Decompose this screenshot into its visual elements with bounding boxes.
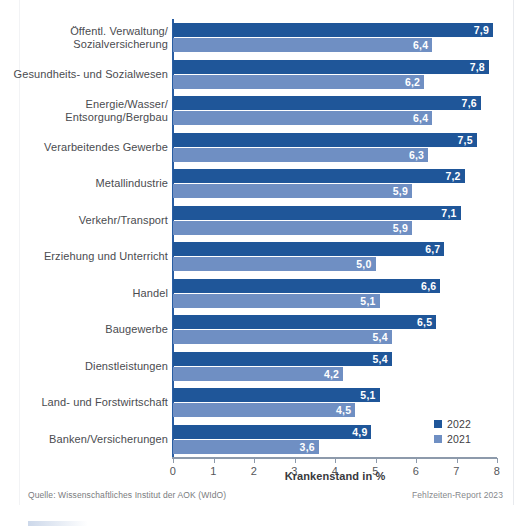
- bar-group: 7,66,4: [173, 96, 497, 126]
- bar-group: 7,86,2: [173, 60, 497, 90]
- bar-row-2022: 7,5: [173, 133, 497, 147]
- bar-value-label: 5,1: [173, 388, 376, 402]
- chart-figure: Öffentl. Verwaltung/SozialversicherungGe…: [0, 0, 531, 531]
- x-axis-tick: [416, 458, 417, 463]
- x-axis-tick: [497, 458, 498, 463]
- bar-row-2021: 6,4: [173, 38, 497, 52]
- bar-value-label: 7,9: [173, 23, 489, 37]
- legend-swatch-icon: [434, 435, 442, 443]
- category-label-line: Sozialversicherung: [4, 38, 168, 51]
- bar-value-label: 5,9: [173, 184, 408, 198]
- category-label: Gesundheits- und Sozialwesen: [4, 68, 168, 81]
- x-axis-tick: [214, 458, 215, 463]
- x-axis-tick: [376, 458, 377, 463]
- bar-value-label: 6,3: [173, 148, 424, 162]
- bar-row-2022: 6,5: [173, 315, 497, 329]
- bar-value-label: 7,1: [173, 206, 457, 220]
- category-label-line: Verkehr/Transport: [4, 214, 168, 227]
- bar-value-label: 6,5: [173, 315, 432, 329]
- report-note: Fehlzeiten-Report 2023: [412, 490, 503, 500]
- bar-value-label: 4,9: [173, 425, 367, 439]
- category-label-line: Energie/Wasser/: [4, 98, 168, 111]
- page-artifact: [28, 521, 88, 526]
- bar-row-2021: 5,9: [173, 221, 497, 235]
- category-label: Öffentl. Verwaltung/Sozialversicherung: [4, 25, 168, 50]
- bar-row-2022: 7,9: [173, 23, 497, 37]
- bar-value-label: 5,9: [173, 221, 408, 235]
- x-axis-tick: [295, 458, 296, 463]
- bar-value-label: 6,2: [173, 75, 420, 89]
- category-label: Baugewerbe: [4, 323, 168, 336]
- bar-value-label: 6,4: [173, 38, 428, 52]
- category-label-line: Entsorgung/Bergbau: [4, 111, 168, 124]
- bar-group: 7,96,4: [173, 23, 497, 53]
- legend-swatch-icon: [434, 420, 442, 428]
- category-label-line: Erziehung und Unterricht: [4, 250, 168, 263]
- bar-row-2022: 5,1: [173, 388, 497, 402]
- legend-item-2022: 2022: [434, 416, 504, 431]
- bar-row-2021: 6,4: [173, 111, 497, 125]
- x-axis-tick: [173, 458, 174, 463]
- plot-area: 0123456787,96,47,86,27,66,47,56,37,25,97…: [173, 19, 497, 457]
- bar-group: 7,25,9: [173, 169, 497, 199]
- bar-group: 5,14,5: [173, 388, 497, 418]
- category-label-column: Öffentl. Verwaltung/SozialversicherungGe…: [0, 19, 168, 457]
- x-axis-title: Krankenstand in %: [173, 470, 497, 482]
- category-label-line: Gesundheits- und Sozialwesen: [4, 68, 168, 81]
- category-label: Handel: [4, 287, 168, 300]
- category-label: Erziehung und Unterricht: [4, 250, 168, 263]
- bar-value-label: 7,5: [173, 133, 473, 147]
- bar-row-2021: 6,3: [173, 148, 497, 162]
- category-label-line: Baugewerbe: [4, 323, 168, 336]
- bar-group: 7,56,3: [173, 133, 497, 163]
- x-axis-tick: [254, 458, 255, 463]
- bar-value-label: 4,5: [173, 403, 351, 417]
- bar-row-2022: 6,6: [173, 279, 497, 293]
- bar-value-label: 5,0: [173, 257, 372, 271]
- bar-group: 7,15,9: [173, 206, 497, 236]
- bar-value-label: 6,4: [173, 111, 428, 125]
- bar-row-2021: 4,5: [173, 403, 497, 417]
- bar-value-label: 7,6: [173, 96, 477, 110]
- bar-value-label: 7,2: [173, 169, 461, 183]
- bar-group: 5,44,2: [173, 352, 497, 382]
- x-axis-tick: [457, 458, 458, 463]
- bar-value-label: 3,6: [173, 440, 315, 454]
- bar-value-label: 5,1: [173, 294, 376, 308]
- bar-row-2021: 4,2: [173, 367, 497, 381]
- figure-frame-right: [513, 0, 514, 505]
- bar-value-label: 6,7: [173, 242, 440, 256]
- legend-item-2021: 2021: [434, 431, 504, 446]
- category-label: Verkehr/Transport: [4, 214, 168, 227]
- chart-legend: 20222021: [434, 416, 504, 446]
- category-label: Land- und Forstwirtschaft: [4, 396, 168, 409]
- category-label-line: Verarbeitendes Gewerbe: [4, 141, 168, 154]
- bar-row-2021: 5,1: [173, 294, 497, 308]
- bar-value-label: 5,4: [173, 330, 388, 344]
- figure-footer: Quelle: Wissenschaftliches Institut der …: [28, 490, 503, 500]
- bar-row-2022: 5,4: [173, 352, 497, 366]
- category-label-line: Metallindustrie: [4, 177, 168, 190]
- bar-group: 6,65,1: [173, 279, 497, 309]
- bar-row-2021: 6,2: [173, 75, 497, 89]
- legend-label: 2021: [447, 433, 471, 445]
- bar-row-2021: 5,0: [173, 257, 497, 271]
- category-label: Banken/Versicherungen: [4, 433, 168, 446]
- bar-row-2021: 5,9: [173, 184, 497, 198]
- bar-value-label: 5,4: [173, 352, 388, 366]
- category-label-line: Banken/Versicherungen: [4, 433, 168, 446]
- bar-group: 6,55,4: [173, 315, 497, 345]
- bar-group: 6,75,0: [173, 242, 497, 272]
- bar-row-2022: 7,1: [173, 206, 497, 220]
- bar-row-2021: 5,4: [173, 330, 497, 344]
- bar-row-2022: 7,6: [173, 96, 497, 110]
- category-label-line: Handel: [4, 287, 168, 300]
- bar-row-2022: 7,8: [173, 60, 497, 74]
- category-label: Dienstleistungen: [4, 360, 168, 373]
- bar-value-label: 7,8: [173, 60, 485, 74]
- bar-row-2022: 7,2: [173, 169, 497, 183]
- category-label: Verarbeitendes Gewerbe: [4, 141, 168, 154]
- source-note: Quelle: Wissenschaftliches Institut der …: [28, 490, 226, 500]
- legend-label: 2022: [447, 418, 471, 430]
- bar-value-label: 4,2: [173, 367, 339, 381]
